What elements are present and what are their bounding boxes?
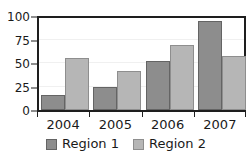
x-axis-tick bbox=[37, 112, 38, 117]
bar-2006-series2 bbox=[170, 45, 194, 110]
x-axis-tick bbox=[245, 112, 246, 117]
bar-2007-series2 bbox=[222, 56, 246, 110]
x-axis-tick bbox=[194, 112, 195, 117]
x-axis-label-2007: 2007 bbox=[203, 117, 236, 133]
legend-swatch-icon bbox=[46, 139, 57, 150]
y-axis-tick bbox=[31, 87, 37, 88]
y-axis-tick-label: 100 bbox=[7, 11, 30, 23]
x-axis-label-2004: 2004 bbox=[47, 117, 80, 133]
legend-swatch-icon bbox=[133, 139, 144, 150]
x-axis-tick bbox=[89, 112, 90, 117]
y-axis-tick bbox=[31, 111, 37, 112]
bar-2005-series1 bbox=[93, 87, 117, 111]
y-axis-tick-label: 50 bbox=[15, 58, 30, 70]
legend-label: Region 1 bbox=[62, 137, 119, 151]
bar-chart-figure: 0255075100 2004200520062007 Region 1Regi… bbox=[0, 0, 252, 156]
legend-item-1: Region 1 bbox=[46, 137, 119, 151]
bar-2004-series1 bbox=[41, 95, 65, 110]
y-axis-tick-label: 75 bbox=[15, 35, 30, 47]
y-axis-tick-label: 0 bbox=[22, 105, 30, 117]
bar-2005-series2 bbox=[117, 71, 141, 110]
bar-2007-series1 bbox=[198, 21, 222, 110]
y-axis-tick bbox=[31, 17, 37, 18]
y-axis-labels: 0255075100 bbox=[0, 16, 30, 112]
chart-legend: Region 1Region 2 bbox=[0, 134, 252, 154]
plot-area bbox=[37, 16, 246, 112]
x-axis-label-2006: 2006 bbox=[151, 117, 184, 133]
bars-layer bbox=[39, 18, 244, 110]
x-axis-tick bbox=[142, 112, 143, 117]
y-axis-tick-label: 25 bbox=[15, 82, 30, 94]
chart-title-cropped bbox=[44, 0, 214, 5]
x-axis-label-2005: 2005 bbox=[99, 117, 132, 133]
legend-item-2: Region 2 bbox=[133, 137, 206, 151]
x-axis: 2004200520062007 bbox=[37, 112, 246, 134]
y-axis-tick bbox=[31, 40, 37, 41]
legend-label: Region 2 bbox=[149, 137, 206, 151]
y-axis-tick bbox=[31, 64, 37, 65]
bar-2004-series2 bbox=[65, 58, 89, 110]
bar-2006-series1 bbox=[146, 61, 170, 110]
